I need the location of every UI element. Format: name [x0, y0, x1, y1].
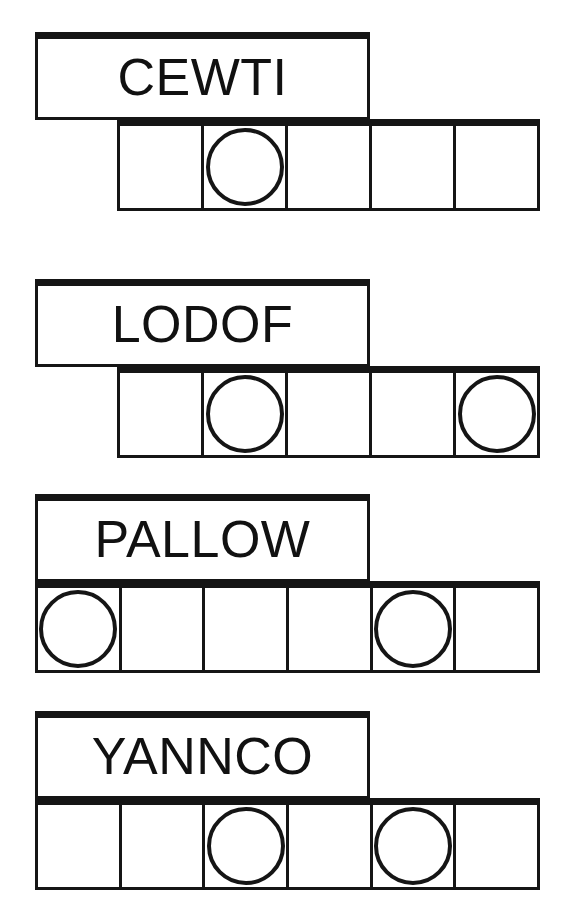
- answer-cell[interactable]: [205, 805, 289, 887]
- answer-cell[interactable]: [204, 126, 288, 208]
- scrambled-word-text-3: PALLOW: [95, 513, 311, 565]
- answer-cell[interactable]: [456, 126, 537, 208]
- answer-grid-2[interactable]: [117, 366, 540, 458]
- answer-cell[interactable]: [120, 126, 204, 208]
- circle-icon: [206, 128, 284, 206]
- answer-cell[interactable]: [288, 373, 372, 455]
- circle-icon: [207, 807, 285, 885]
- answer-cell[interactable]: [456, 805, 537, 887]
- answer-cell[interactable]: [122, 588, 206, 670]
- worksheet-page: CEWTI LODOF PALLOW YANNCO: [0, 0, 585, 915]
- answer-cell[interactable]: [122, 805, 206, 887]
- scrambled-word-box-4: YANNCO: [35, 711, 370, 799]
- circle-icon: [374, 807, 452, 885]
- answer-grid-4[interactable]: [35, 798, 540, 890]
- circle-icon: [39, 590, 117, 668]
- answer-grid-1[interactable]: [117, 119, 540, 211]
- scrambled-word-text-1: CEWTI: [117, 51, 287, 103]
- scrambled-word-text-2: LODOF: [112, 298, 294, 350]
- circle-icon: [374, 590, 452, 668]
- scrambled-word-box-2: LODOF: [35, 279, 370, 367]
- scrambled-word-text-4: YANNCO: [92, 730, 314, 782]
- answer-cell[interactable]: [372, 126, 456, 208]
- answer-cell[interactable]: [289, 805, 373, 887]
- answer-cell[interactable]: [456, 373, 537, 455]
- answer-cell[interactable]: [288, 126, 372, 208]
- answer-cell[interactable]: [38, 588, 122, 670]
- answer-grid-3[interactable]: [35, 581, 540, 673]
- circle-icon: [458, 375, 536, 453]
- answer-cell[interactable]: [373, 588, 457, 670]
- answer-cell[interactable]: [38, 805, 122, 887]
- answer-cell[interactable]: [372, 373, 456, 455]
- answer-cell[interactable]: [120, 373, 204, 455]
- answer-cell[interactable]: [205, 588, 289, 670]
- answer-cell[interactable]: [456, 588, 537, 670]
- circle-icon: [206, 375, 284, 453]
- scrambled-word-box-3: PALLOW: [35, 494, 370, 582]
- scrambled-word-box-1: CEWTI: [35, 32, 370, 120]
- answer-cell[interactable]: [204, 373, 288, 455]
- answer-cell[interactable]: [289, 588, 373, 670]
- answer-cell[interactable]: [373, 805, 457, 887]
